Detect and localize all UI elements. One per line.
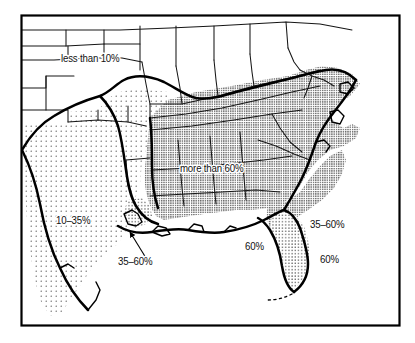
label-more-than-60-text: more than 60%	[180, 162, 243, 174]
label-less-than-10-text: less than 10%	[61, 52, 120, 64]
label-60-gulf: 60% 60%	[245, 240, 264, 252]
label-60-atlantic: 60% 60%	[320, 253, 339, 265]
label-10-35-text: 10–35%	[56, 214, 90, 226]
label-60-atlantic-text: 60%	[320, 253, 339, 265]
label-35-60-delta: 35–60% 35–60%	[118, 255, 152, 267]
map-figure: less than 10% less than 10% more than 60…	[0, 0, 415, 343]
label-10-35: 10–35% 10–35%	[56, 214, 90, 226]
label-more-than-60: more than 60% more than 60%	[180, 162, 243, 174]
label-less-than-10: less than 10% less than 10%	[61, 52, 120, 64]
label-35-60-atlantic-text: 35–60%	[310, 218, 344, 230]
label-35-60-delta-text: 35–60%	[118, 255, 152, 267]
map-canvas: less than 10% less than 10% more than 60…	[0, 0, 415, 343]
label-35-60-atlantic: 35–60% 35–60%	[310, 218, 344, 230]
label-60-gulf-text: 60%	[245, 240, 264, 252]
